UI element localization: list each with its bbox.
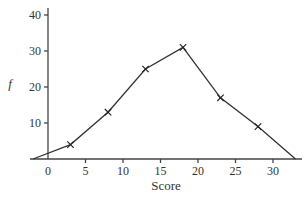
x-tick-label: 20: [192, 164, 204, 178]
x-axis-label: Score: [151, 178, 181, 193]
x-axis-ticks: 051015202530: [45, 159, 279, 178]
axes: [30, 8, 302, 159]
x-tick-label: 10: [117, 164, 129, 178]
y-axis-label: f: [8, 76, 14, 91]
data-series: [33, 44, 296, 159]
x-marker-icon: [105, 109, 111, 115]
x-tick-label: 25: [230, 164, 242, 178]
frequency-polygon-chart: 051015202530 10203040 Score f: [0, 0, 304, 198]
y-axis-ticks: 10203040: [29, 8, 48, 130]
x-marker-icon: [255, 123, 261, 129]
y-tick-label: 40: [29, 8, 41, 22]
x-marker-icon: [142, 66, 148, 72]
x-marker-icon: [217, 95, 223, 101]
x-tick-label: 5: [83, 164, 89, 178]
x-tick-label: 0: [45, 164, 51, 178]
x-tick-label: 30: [267, 164, 279, 178]
y-tick-label: 20: [29, 80, 41, 94]
x-marker-icon: [67, 141, 73, 147]
x-marker-icon: [180, 44, 186, 50]
x-tick-label: 15: [155, 164, 167, 178]
y-tick-label: 30: [29, 44, 41, 58]
y-tick-label: 10: [29, 116, 41, 130]
